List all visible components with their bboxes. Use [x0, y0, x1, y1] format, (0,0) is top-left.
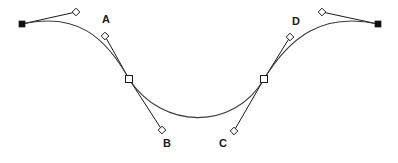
handle-c[interactable]: [230, 127, 238, 135]
anchor-start-point[interactable]: [19, 21, 25, 27]
handle-start-out[interactable]: [72, 8, 80, 16]
anchor-end-point[interactable]: [375, 21, 381, 27]
label-a: A: [102, 14, 110, 25]
bezier-curve-path[interactable]: [22, 21, 378, 118]
bezier-canvas[interactable]: A B C D: [0, 0, 398, 163]
handle-b[interactable]: [158, 126, 166, 134]
handle-a[interactable]: [101, 32, 109, 40]
node-right[interactable]: [261, 76, 268, 83]
label-b: B: [163, 138, 171, 149]
label-d: D: [292, 16, 300, 27]
label-c: C: [219, 138, 227, 149]
handle-d[interactable]: [286, 33, 294, 41]
bezier-curve-diagram: [0, 0, 398, 163]
node-left[interactable]: [126, 76, 133, 83]
handle-end-in[interactable]: [318, 8, 326, 16]
